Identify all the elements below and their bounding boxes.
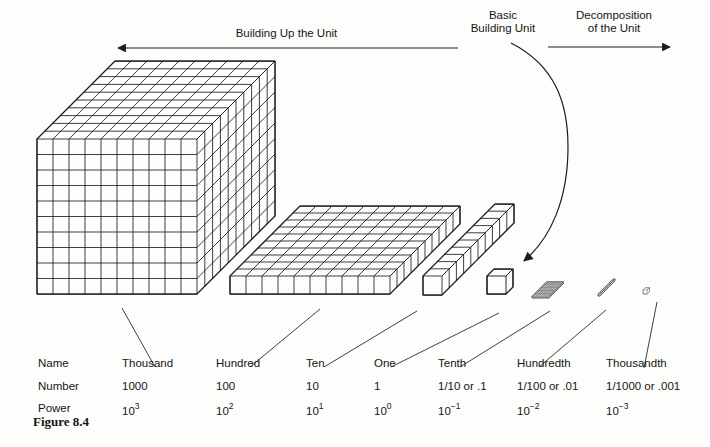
column-name-6: Thousandth (606, 357, 667, 369)
column-number-4: 1/10 or .1 (438, 380, 487, 392)
basic-building-unit-line2: Building Unit (450, 22, 556, 35)
column-name-5: Hundredth (517, 357, 571, 369)
power-exponent: −2 (530, 401, 540, 411)
column-name-1: Hundred (216, 357, 260, 369)
row-header-name: Name (38, 357, 69, 369)
decomposition-line2: of the Unit (550, 22, 678, 35)
column-power-1: 102 (216, 402, 234, 417)
column-name-2: Ten (306, 357, 325, 369)
row-header-power: Power (38, 402, 71, 414)
basic-unit-pointer-arrow (511, 43, 568, 261)
hundredth-rod-block-grid (598, 279, 615, 296)
row-header-number: Number (38, 380, 79, 392)
decomposition-line1: Decomposition (550, 9, 678, 22)
power-base: 10 (517, 405, 530, 417)
column-number-6: 1/1000 or .001 (606, 380, 680, 392)
power-exponent: −3 (619, 401, 629, 411)
thousand-cube-block-outline (37, 61, 275, 294)
column-number-1: 100 (216, 380, 235, 392)
thousand-cube-block (37, 61, 275, 294)
column-name-4: Tenth (438, 357, 466, 369)
thousandth-cube-block (643, 288, 650, 294)
column-power-4: 10−1 (438, 402, 461, 417)
power-exponent: 1 (319, 401, 324, 411)
figure-8-4-diagram: Building Up the Unit Basic Building Unit… (0, 0, 710, 447)
hundredth-rod-block (598, 279, 615, 296)
column-power-0: 103 (122, 402, 140, 417)
one-cube-block (487, 269, 513, 294)
column-power-6: 10−3 (606, 402, 629, 417)
column-name-3: One (374, 357, 396, 369)
power-base: 10 (122, 405, 135, 417)
decomposition-label: Decomposition of the Unit (550, 9, 678, 35)
power-base: 10 (374, 405, 387, 417)
column-number-5: 1/100 or .01 (517, 380, 578, 392)
column-power-5: 10−2 (517, 402, 540, 417)
tenth-flat-block (532, 282, 564, 298)
power-exponent: 2 (229, 401, 234, 411)
power-base: 10 (306, 405, 319, 417)
base-ten-blocks-canvas (0, 0, 710, 447)
power-exponent: −1 (451, 401, 461, 411)
power-base: 10 (216, 405, 229, 417)
building-up-label: Building Up the Unit (115, 27, 458, 40)
column-power-2: 101 (306, 402, 324, 417)
power-base: 10 (438, 405, 451, 417)
column-power-3: 100 (374, 402, 392, 417)
column-number-3: 1 (374, 380, 380, 392)
power-exponent: 0 (387, 401, 392, 411)
pointer-line-2 (324, 311, 417, 367)
basic-building-unit-line1: Basic (450, 9, 556, 22)
column-name-0: Thousand (122, 357, 173, 369)
power-exponent: 3 (135, 401, 140, 411)
basic-building-unit-label: Basic Building Unit (450, 9, 556, 35)
power-base: 10 (606, 405, 619, 417)
figure-caption: Figure 8.4 (33, 414, 89, 430)
column-number-0: 1000 (122, 380, 148, 392)
column-number-2: 10 (306, 380, 319, 392)
